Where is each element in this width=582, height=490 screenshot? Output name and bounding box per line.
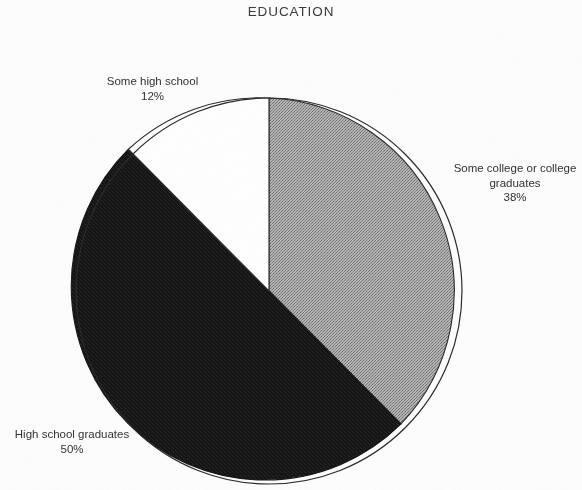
- pie-chart-svg: [0, 0, 582, 490]
- pie-label-high-school-graduates: High school graduates 50%: [4, 427, 140, 456]
- pie-label-some-high-school: Some high school 12%: [95, 74, 210, 103]
- pie-label-high-school-graduates-value: 50%: [4, 442, 140, 457]
- pie-label-some-high-school-text: Some high school: [95, 74, 210, 89]
- pie-label-some-college-value: 38%: [450, 190, 580, 205]
- pie-label-some-college: Some college or college graduates 38%: [450, 161, 580, 205]
- pie-label-some-college-text-line2: graduates: [450, 176, 580, 191]
- pie-label-high-school-graduates-text: High school graduates: [4, 427, 140, 442]
- pie-label-some-college-text-line1: Some college or college: [450, 161, 580, 176]
- pie-chart-area: [0, 0, 582, 490]
- education-pie-chart-figure: EDUCATION: [0, 0, 582, 490]
- pie-label-some-high-school-value: 12%: [95, 89, 210, 104]
